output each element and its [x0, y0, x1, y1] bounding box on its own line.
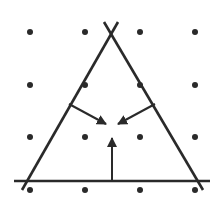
lattice-dot-r3-c0	[27, 187, 33, 193]
triangle-left-side-line	[22, 22, 118, 190]
triangle-right-side-line	[104, 22, 203, 190]
lattice-dot-r0-c3	[192, 29, 198, 35]
lattice-dot-r1-c3	[192, 82, 198, 88]
diagram-canvas	[0, 0, 220, 210]
arrow-from-left-side-icon	[69, 104, 106, 124]
arrow-from-right-side-icon	[118, 104, 155, 124]
lattice-dot-r2-c2	[137, 134, 143, 140]
lattice-dot-r0-c1	[82, 29, 88, 35]
triangle-lattice-diagram	[0, 0, 220, 210]
lattice-dot-r1-c0	[27, 82, 33, 88]
lattice-dot-r0-c0	[27, 29, 33, 35]
lattice-dot-r2-c3	[192, 134, 198, 140]
lattice-dot-r3-c1	[82, 187, 88, 193]
lattice-dot-r3-c3	[192, 187, 198, 193]
inward-arrows	[69, 104, 155, 181]
lattice-dot-r0-c2	[137, 29, 143, 35]
lattice-dot-r2-c1	[82, 134, 88, 140]
lattice-dot-r2-c0	[27, 134, 33, 140]
lattice-dot-r3-c2	[137, 187, 143, 193]
